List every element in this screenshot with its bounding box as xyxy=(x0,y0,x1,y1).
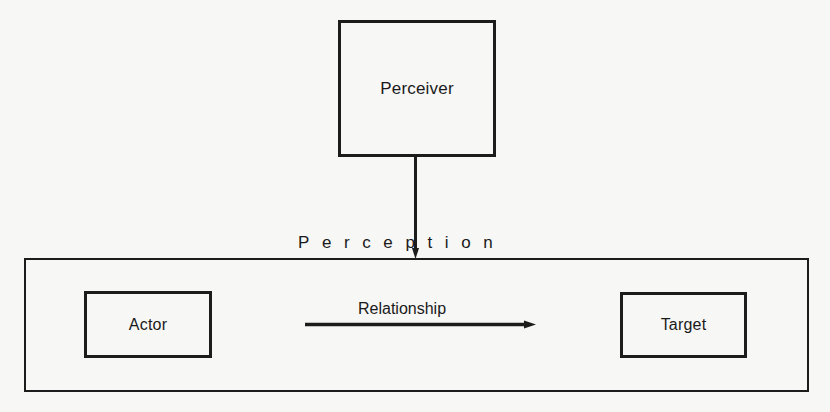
connector-lines xyxy=(0,0,830,412)
perception-arrow-icon xyxy=(412,157,419,259)
relationship-arrow-icon xyxy=(305,321,536,329)
